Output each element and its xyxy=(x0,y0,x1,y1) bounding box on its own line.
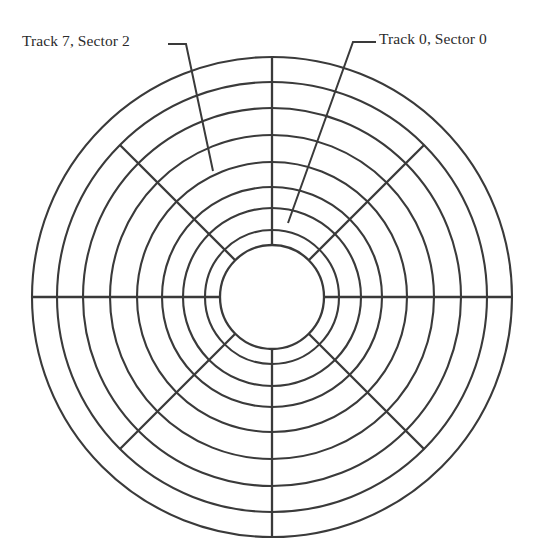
disk-platter-figure: Track 7, Sector 2 Track 0, Sector 0 xyxy=(0,0,543,557)
disk-platter-svg xyxy=(0,0,543,557)
sector-spokes-group xyxy=(32,57,512,537)
spoke-southeast xyxy=(309,334,424,449)
spoke-southwest xyxy=(120,334,235,449)
spoke-northeast xyxy=(309,145,424,260)
leader-line-track7-sector2 xyxy=(168,44,213,171)
spindle-hub-circle xyxy=(220,245,324,349)
spoke-northwest xyxy=(120,145,235,260)
callout-label-track7-sector2: Track 7, Sector 2 xyxy=(22,33,130,49)
callout-label-track0-sector0: Track 0, Sector 0 xyxy=(379,31,487,47)
